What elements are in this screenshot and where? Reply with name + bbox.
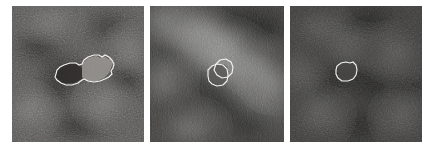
- scan-image-3: [290, 6, 422, 142]
- figure-panel-series: [0, 0, 429, 153]
- scan-panel-1[interactable]: [12, 6, 144, 142]
- scan-panel-2[interactable]: [150, 6, 284, 142]
- scan-panel-3[interactable]: [290, 6, 422, 142]
- scan-image-1: [12, 6, 144, 142]
- scan-image-2: [150, 6, 284, 142]
